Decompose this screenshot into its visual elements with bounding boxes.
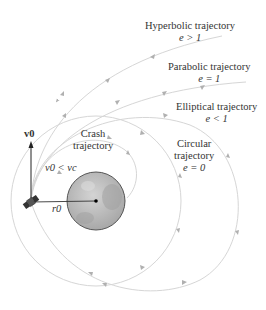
crash-condition-text: v0 < vc — [45, 162, 77, 173]
crash-title-1: Crash — [73, 128, 113, 140]
orbital-trajectories-diagram: Hyperbolic trajectory e > 1 Parabolic tr… — [0, 0, 266, 310]
trajectory-curves — [0, 0, 266, 310]
parabolic-title: Parabolic trajectory — [168, 61, 251, 73]
crash-title-2: trajectory — [73, 140, 113, 152]
radius-label: r0 — [52, 203, 61, 215]
elliptical-eq: e < 1 — [176, 113, 257, 125]
velocity-label: v0 — [24, 128, 35, 140]
elliptical-title: Elliptical trajectory — [176, 101, 257, 113]
circular-eq: e = 0 — [174, 162, 214, 174]
circular-label: Circular trajectory e = 0 — [174, 138, 214, 174]
velocity-text: v0 — [24, 128, 35, 139]
parabolic-eq: e = 1 — [168, 73, 251, 85]
crash-label: Crash trajectory — [73, 128, 113, 152]
hyperbolic-label: Hyperbolic trajectory e > 1 — [145, 20, 235, 44]
circular-title-1: Circular — [174, 138, 214, 150]
crash-condition: v0 < vc — [45, 162, 77, 174]
hyperbolic-title: Hyperbolic trajectory — [145, 20, 235, 32]
elliptical-label: Elliptical trajectory e < 1 — [176, 101, 257, 125]
radius-text: r0 — [52, 203, 61, 214]
hyperbolic-eq: e > 1 — [145, 32, 235, 44]
parabolic-label: Parabolic trajectory e = 1 — [168, 61, 251, 85]
planet-center — [94, 199, 98, 203]
circular-title-2: trajectory — [174, 150, 214, 162]
